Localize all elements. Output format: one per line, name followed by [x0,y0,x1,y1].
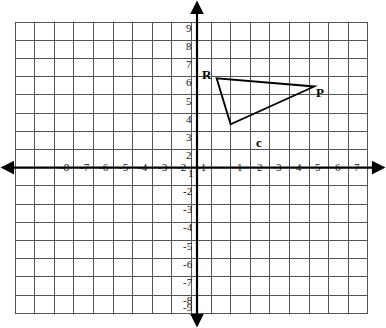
y-tick-label-1: 1 [188,168,194,179]
x-tick-label--6: -6 [99,162,108,173]
vertex-label-P: P [316,86,324,99]
x-tick-label-2: 2 [257,162,263,173]
vertex-label-c: c [256,136,262,149]
x-tick-label-4: 4 [296,162,302,173]
y-tick-label--3: -3 [183,204,192,215]
coordinate-plane-svg [0,0,386,328]
y-tick-label-9: 9 [186,23,192,34]
y-tick-label-2: 2 [186,150,192,161]
coordinate-grid-figure: -8 -7 -6 -5 -4 -3 -2 -1 1 2 3 4 5 6 7 8 … [0,0,386,328]
y-tick-label--7: -7 [183,277,192,288]
x-tick-label--5: -5 [119,162,128,173]
x-tick-label--1: -1 [197,162,206,173]
x-tick-label--4: -4 [138,162,147,173]
y-tick-label-6: 6 [186,77,192,88]
x-tick-label--8: -8 [60,162,69,173]
x-tick-label-1: 1 [237,162,243,173]
y-tick-label--4: -4 [183,222,192,233]
x-tick-label-8: 8 [374,162,380,173]
x-tick-label-3: 3 [276,162,282,173]
y-tick-label--5: -5 [183,241,192,252]
y-tick-label-5: 5 [186,96,192,107]
y-tick-label-3: 3 [186,132,192,143]
x-tick-label--3: -3 [158,162,167,173]
y-tick-label-8: 8 [186,41,192,52]
vertex-label-R: R [202,68,211,81]
y-tick-label--9: -9 [183,302,192,313]
y-tick-label-7: 7 [186,59,192,70]
x-tick-label-7: 7 [354,162,360,173]
x-tick-label-5: 5 [315,162,321,173]
x-tick-label-6: 6 [335,162,341,173]
y-tick-label--2: -2 [183,186,192,197]
y-tick-label--6: -6 [183,259,192,270]
x-tick-label--2: -2 [177,162,186,173]
x-tick-label--7: -7 [80,162,89,173]
y-tick-label-4: 4 [186,114,192,125]
